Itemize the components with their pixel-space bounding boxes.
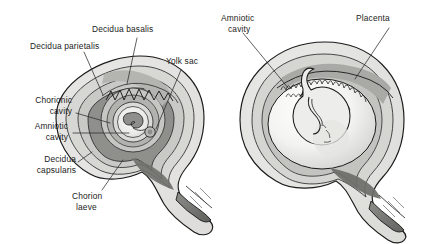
anatomy-figure: Decidua basalis Decidua parietalis Yolk … <box>0 0 423 244</box>
label-placenta: Placenta <box>356 13 390 23</box>
label-decidua-capsularis-line1: Decidua <box>44 154 76 164</box>
label-decidua-basalis: Decidua basalis <box>92 24 153 34</box>
label-chorion-laeve-line1: Chorion <box>72 191 103 201</box>
label-chorionic-cavity-line2: cavity <box>50 106 73 116</box>
yolk-sac-inner-left <box>148 130 153 135</box>
label-chorionic-cavity-line1: Chorionic <box>35 95 72 105</box>
label-amniotic-cavity-line1: Amniotic <box>35 121 68 131</box>
label-decidua-parietalis: Decidua parietalis <box>30 41 99 51</box>
label-amniotic-cavity-right-line1: Amniotic <box>221 13 254 23</box>
label-decidua-capsularis-line2: capsularis <box>37 165 76 175</box>
label-amniotic-cavity-line2: cavity <box>46 132 69 142</box>
fetus-head-right <box>313 120 349 156</box>
panel-early-gestation: Decidua basalis Decidua parietalis Yolk … <box>30 24 213 235</box>
label-amniotic-cavity-right-line2: cavity <box>228 24 251 34</box>
anatomy-illustration: Decidua basalis Decidua parietalis Yolk … <box>0 0 423 244</box>
label-chorion-laeve-line2: laeve <box>76 202 97 212</box>
panel-late-gestation: Amniotic cavity Placenta <box>221 13 406 243</box>
label-yolk-sac: Yolk sac <box>166 56 198 66</box>
